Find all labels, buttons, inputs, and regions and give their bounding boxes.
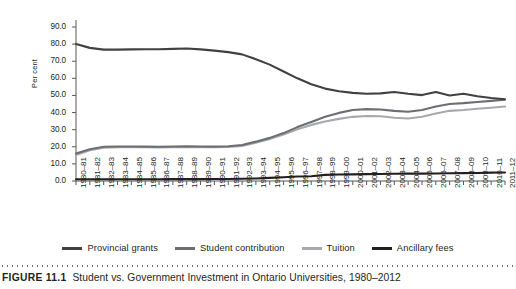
x-axis-tick-label: 2000–01 [356,157,365,188]
y-axis-tick-label: 10.0 [22,159,66,168]
figure-caption: FIGURE 11.1 Student vs. Government Inves… [2,272,514,283]
x-axis-tick-label: 2011–12 [508,158,516,188]
x-axis-tick-label: 1983–84 [121,157,130,188]
legend-item-student-contribution[interactable]: Student contribution [175,243,285,253]
y-axis-tick-label: 50.0 [22,90,66,99]
legend-item-ancillary-fees[interactable]: Ancillary fees [372,243,454,253]
x-axis-tick-label: 2010–11 [495,158,504,188]
x-axis-tick-label: 1980–81 [79,157,88,188]
x-axis-tick-label: 1995–96 [287,157,296,188]
x-axis-tick-label: 1992–93 [245,157,254,188]
y-axis-tick-label: 40.0 [22,108,66,117]
legend-swatch-icon [62,247,82,250]
caption-divider [0,264,516,268]
y-axis-tick-label: 80.0 [22,39,66,48]
x-axis-tick-label: 2008–09 [467,157,476,188]
y-axis-tick-label: 30.0 [22,125,66,134]
y-axis-tick-label: 60.0 [22,73,66,82]
x-axis-tick-label: 2005–06 [425,157,434,188]
series-line-student-contribution [76,100,505,154]
legend-item-tuition[interactable]: Tuition [302,243,355,253]
line-chart-svg [0,0,516,240]
y-axis-tick-label: 90.0 [22,22,66,31]
x-axis-tick-label: 2001–02 [370,157,379,188]
legend-label: Ancillary fees [397,243,454,253]
x-axis-tick-label: 2004–05 [412,157,421,188]
x-axis-tick-label: 1988–89 [190,157,199,188]
series-line-provincial-grants [76,44,505,99]
x-axis-tick-label: 1998–99 [328,157,337,188]
chart-plot-area: Per cent 0.010.020.030.040.050.060.070.0… [0,0,516,240]
x-axis-tick-label: 1984–85 [135,157,144,188]
legend-swatch-icon [175,247,195,250]
legend-label: Student contribution [200,243,285,253]
y-axis-tick-label: 0.0 [22,176,66,185]
x-axis-tick-label: 1989–90 [204,157,213,188]
x-axis-tick-label: 2003–04 [398,157,407,188]
x-axis-tick-label: 1982–83 [107,157,116,188]
legend-swatch-icon [302,247,322,250]
x-axis-tick-label: 1981–82 [93,157,102,188]
x-axis-tick-label: 1997–98 [315,157,324,188]
figure-title: Student vs. Government Investment in Ont… [72,272,401,283]
x-axis-tick-label: 1987–88 [176,157,185,188]
chart-legend: Provincial grantsStudent contributionTui… [0,241,516,255]
x-axis-tick-label: 1991–92 [232,157,241,188]
x-axis-tick-label: 1999–00 [342,157,351,188]
x-axis-tick-label: 1990–91 [218,157,227,188]
y-axis-tick-label: 20.0 [22,142,66,151]
legend-label: Tuition [327,243,355,253]
x-axis-tick-label: 2007–08 [453,157,462,188]
x-axis-tick-label: 2009–10 [481,157,490,188]
legend-swatch-icon [372,247,392,250]
legend-label: Provincial grants [87,243,157,253]
x-axis-tick-label: 1993–94 [259,157,268,188]
x-axis-tick-label: 2002–03 [384,157,393,188]
x-axis-tick-label: 2006–07 [439,157,448,188]
x-axis-tick-label: 1985–86 [149,157,158,188]
x-axis-tick-label: 1994–95 [273,157,282,188]
figure-container: Per cent 0.010.020.030.040.050.060.070.0… [0,0,516,289]
x-axis-tick-label: 1986–87 [162,157,171,188]
x-axis-tick-label: 1996–97 [301,157,310,188]
figure-number: FIGURE 11.1 [2,272,67,283]
legend-item-provincial-grants[interactable]: Provincial grants [62,243,157,253]
y-axis-tick-label: 70.0 [22,56,66,65]
